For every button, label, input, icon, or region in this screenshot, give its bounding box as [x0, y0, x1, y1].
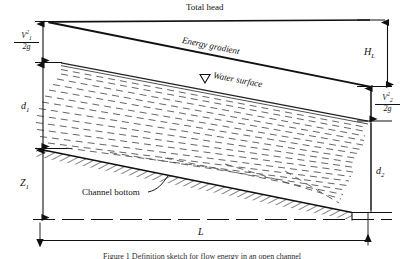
- channel-bed: [36, 149, 352, 221]
- velocity-head-2-denominator: 2g: [375, 105, 400, 114]
- total-head-label: Total head: [186, 3, 224, 12]
- length-label: L: [198, 227, 204, 238]
- depth-1-label: d1: [21, 101, 29, 113]
- dimension-length: [40, 213, 368, 246]
- figure-canvas: Total head Energy gradient Water surface…: [0, 0, 404, 259]
- depth-2-label: d2: [376, 166, 384, 178]
- elevation-1-label: Z1: [20, 178, 29, 190]
- total-head-line: [49, 20, 371, 22]
- velocity-head-1-denominator: 2g: [14, 43, 39, 52]
- down-triangle-marker: [200, 75, 210, 84]
- figure-caption: Figure 1 Definition sketch for flow ener…: [0, 252, 404, 259]
- energy-gradient-line: [49, 22, 371, 86]
- head-loss-label: HL: [364, 47, 375, 59]
- velocity-head-2-label: V22 2g: [375, 92, 400, 113]
- channel-bottom-label: Channel bottom: [82, 188, 140, 197]
- velocity-head-1-label: V21 2g: [14, 30, 39, 51]
- velocity-head-1-numerator: V21: [14, 30, 39, 43]
- velocity-head-2-numerator: V22: [375, 92, 400, 105]
